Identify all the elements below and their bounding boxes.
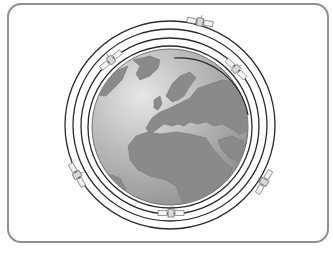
earth-orbit-diagram (0, 0, 333, 253)
satellite-icon (187, 13, 215, 28)
